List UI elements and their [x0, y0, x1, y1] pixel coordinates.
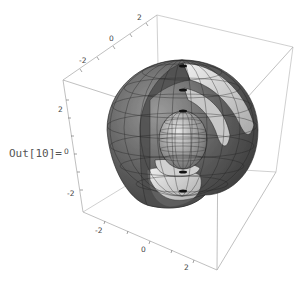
bottom-axis-tick-0: 0 [141, 245, 146, 254]
left-axis [66, 100, 83, 190]
left-axis-tick-2: 2 [58, 105, 63, 114]
top-axis [80, 23, 148, 72]
top-axis-tick-neg2: -2 [79, 56, 87, 65]
left-axis-tick-0: 0 [64, 147, 69, 156]
top-axis-tick-2: 2 [137, 13, 142, 22]
3d-plot-graphic[interactable]: -2 0 2 2 0 -2 -2 0 2 [0, 0, 303, 285]
bottom-axis-tick-neg2: -2 [95, 226, 103, 235]
top-axis-tick-0: 0 [109, 34, 114, 43]
inner-sphere [159, 111, 207, 169]
bottom-axis-tick-2: 2 [184, 263, 189, 272]
left-axis-tick-neg2: -2 [67, 189, 75, 198]
